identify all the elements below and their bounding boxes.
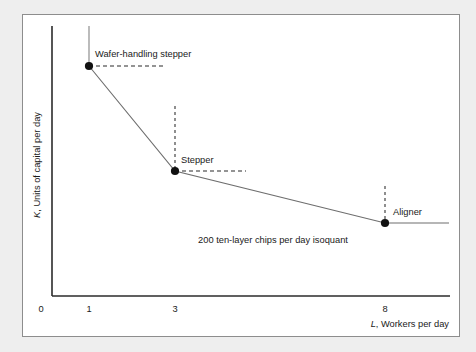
y-axis-title-rest: , Units of capital per day — [32, 112, 42, 212]
data-point-wafer-handling-stepper — [85, 62, 93, 70]
y-axis-title: K, Units of capital per day — [32, 112, 42, 218]
x-axis-title-rest: , Workers per day — [376, 319, 450, 329]
data-point-stepper — [171, 167, 179, 175]
x-tick-label-0: 0 — [38, 304, 43, 314]
annotation-wafer-handling-stepper: Wafer-handling stepper — [95, 49, 191, 59]
x-tick-label-3: 3 — [172, 304, 177, 314]
x-tick-label-8: 8 — [382, 304, 387, 314]
x-tick-label-1: 1 — [86, 304, 91, 314]
isoquant-path — [89, 66, 449, 223]
isoquant-chart: Wafer-handling stepper Stepper Aligner 2… — [23, 15, 459, 336]
annotation-aligner: Aligner — [393, 207, 422, 217]
annotation-isoquant-caption: 200 ten-layer chips per day isoquant — [198, 235, 348, 245]
data-point-aligner — [381, 219, 389, 227]
figure-root: Wafer-handling stepper Stepper Aligner 2… — [0, 0, 476, 352]
x-axis-title: L, Workers per day — [371, 319, 450, 329]
annotation-stepper: Stepper — [181, 155, 214, 165]
figure-panel: Wafer-handling stepper Stepper Aligner 2… — [22, 14, 460, 337]
